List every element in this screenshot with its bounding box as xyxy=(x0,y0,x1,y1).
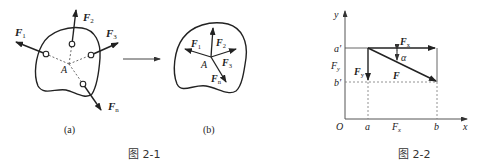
point-a-label: A xyxy=(60,64,68,75)
force-arrow-f3 xyxy=(91,43,118,55)
label-fn: Fn xyxy=(107,100,119,114)
figure-2-1a: A F1 F2 F3 Fn (a) xyxy=(14,10,119,136)
force-arrow-f1-b xyxy=(185,49,211,57)
label-f2-b: F2 xyxy=(215,37,226,49)
mark-b: b xyxy=(434,121,439,132)
angle-alpha-label: α xyxy=(401,52,407,63)
force-f-label: F xyxy=(392,70,400,81)
force-arrow-f1 xyxy=(16,42,46,54)
figures-canvas: A F1 F2 F3 Fn (a) A F1 F2 F3 Fn (b) 图 2-… xyxy=(0,0,481,167)
figure-2-1-caption: 图 2-1 xyxy=(128,148,160,161)
point-a-label-b: A xyxy=(200,59,208,70)
figure-2-2-caption: 图 2-2 xyxy=(398,148,430,161)
figure-2-2: y x O a b a′ b′ Fy Fx Fx Fy F α xyxy=(330,9,468,133)
force-arrow-f3-b xyxy=(211,49,236,57)
mark-a-prime: a′ xyxy=(334,43,342,54)
label-fn-b: Fn xyxy=(210,73,222,85)
component-fy-label: Fy xyxy=(353,66,365,78)
label-f3: F3 xyxy=(105,27,117,41)
label-f2: F2 xyxy=(82,11,94,25)
projection-fy-label: Fy xyxy=(330,60,340,72)
component-fx-label: Fx xyxy=(399,36,411,48)
dashed-lines xyxy=(46,44,91,84)
projection-fx-label: Fx xyxy=(391,121,401,133)
label-f1: F1 xyxy=(14,26,26,40)
origin-label: O xyxy=(336,121,343,132)
x-axis-label: x xyxy=(462,121,468,132)
label-f3-b: F3 xyxy=(221,57,232,69)
subfig-b-label: (b) xyxy=(203,124,215,136)
force-arrow-f2-b xyxy=(211,28,213,57)
force-arrow-fn xyxy=(83,84,101,110)
mark-b-prime: b′ xyxy=(334,77,342,88)
figure-2-1b: A F1 F2 F3 Fn (b) xyxy=(174,23,246,136)
y-axis-label: y xyxy=(333,9,339,20)
mark-a: a xyxy=(365,121,370,132)
subfig-a-label: (a) xyxy=(64,124,75,136)
label-f1-b: F1 xyxy=(190,38,201,50)
rigid-body-outline xyxy=(35,28,100,97)
